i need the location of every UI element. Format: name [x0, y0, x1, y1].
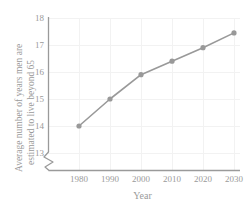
data-point-1990 [107, 96, 112, 101]
y-axis-title-line-2: estimated to live beyond 65 [26, 60, 36, 165]
x-tick-label-2030: 2030 [217, 175, 246, 184]
x-tick-label-2020: 2020 [186, 175, 220, 184]
data-point-2010 [169, 59, 174, 64]
data-point-2030 [231, 30, 236, 35]
y-axis-title: Average number of years men are estimate… [0, 0, 40, 180]
data-point-2020 [200, 45, 205, 50]
x-axis-title: Year [45, 190, 240, 201]
x-tick-label-2000: 2000 [124, 175, 158, 184]
grid-horizontal [48, 19, 240, 154]
data-point-2000 [138, 72, 143, 77]
grid-vertical [80, 18, 235, 170]
x-tick-label-2010: 2010 [155, 175, 189, 184]
y-axis-title-line-1: Average number of years men are [14, 44, 24, 172]
data-line-series-1 [79, 33, 234, 126]
x-tick-label-1990: 1990 [93, 175, 127, 184]
data-point-1980 [76, 123, 81, 128]
x-tick-label-1980: 1980 [62, 175, 96, 184]
y-axis-break-icon [44, 152, 53, 170]
chart-figure: 18 17 16 15 14 13 1980 1990 2000 2010 20… [0, 0, 246, 211]
